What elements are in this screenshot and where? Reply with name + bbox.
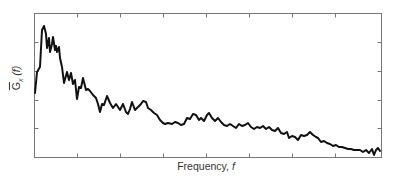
spectrum-line: [35, 26, 380, 155]
y-axis-label: Gx (f): [10, 66, 24, 91]
spectrum-chart: [0, 0, 395, 180]
axis-ticks: [35, 14, 382, 158]
x-axis-label: Frequency, f: [130, 160, 282, 172]
plot-frame: [35, 14, 382, 158]
